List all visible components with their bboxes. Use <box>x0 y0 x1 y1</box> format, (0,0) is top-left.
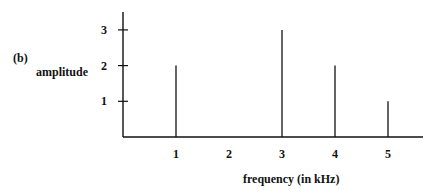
x-tick-label: 3 <box>279 147 285 161</box>
x-tick-label: 4 <box>332 147 338 161</box>
y-tick-label: 1 <box>101 94 107 108</box>
x-tick-label: 5 <box>385 147 391 161</box>
y-tick-label: 3 <box>101 23 107 37</box>
y-tick-label: 2 <box>101 59 107 73</box>
x-tick-label: 1 <box>173 147 179 161</box>
stem-chart: 12312345 <box>0 0 440 194</box>
x-tick-label: 2 <box>226 147 232 161</box>
